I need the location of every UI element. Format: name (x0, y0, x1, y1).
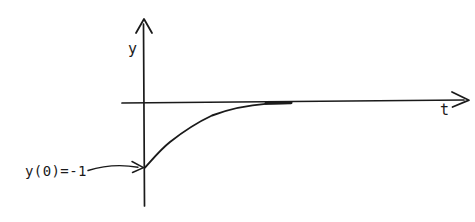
y-axis-line (144, 24, 145, 206)
t-axis-label: t (440, 101, 449, 119)
y-axis-label: y (128, 40, 137, 58)
exponential-decay-diagram: t y y(0)=-1 (0, 0, 475, 222)
t-axis-line (122, 100, 464, 103)
t-axis: t (122, 92, 469, 119)
annotation-leader-line (88, 166, 138, 171)
asymptote-merge-segment (266, 103, 291, 104)
curve-series (145, 103, 291, 168)
initial-condition-annotation: y(0)=-1 (25, 162, 144, 180)
initial-condition-label: y(0)=-1 (25, 163, 87, 179)
exponential-curve (145, 103, 288, 168)
y-axis: y (128, 19, 152, 206)
